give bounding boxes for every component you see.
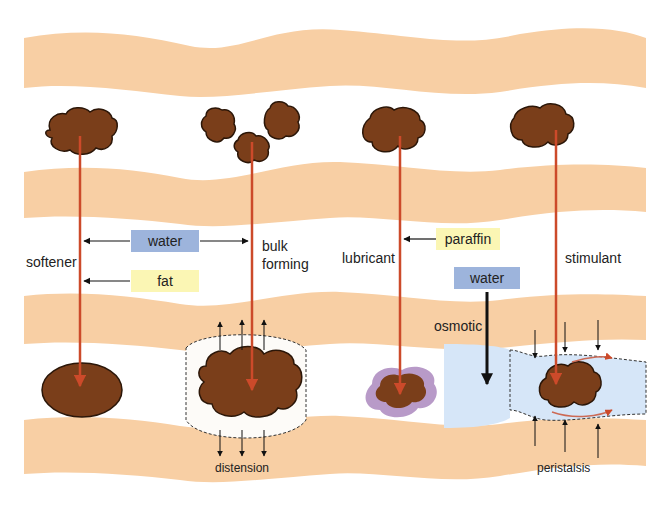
fat-box: fat: [131, 270, 199, 292]
stool-softener-top: [46, 108, 118, 155]
upper-gut-wall-bottom: [24, 162, 646, 226]
upper-gut-wall-top: [24, 28, 646, 97]
water-box-osmotic: water: [454, 267, 520, 289]
label-bulk: bulk: [262, 238, 288, 255]
label-softener: softener: [26, 254, 77, 271]
label-osmotic: osmotic: [434, 318, 482, 335]
lower-gut-wall-top: [24, 292, 646, 352]
label-distension: distension: [215, 460, 269, 477]
label-forming: forming: [262, 256, 309, 273]
stool-stimulant-top: [511, 104, 574, 147]
stool-bulk-top: [202, 102, 300, 163]
stool-lubricant-top: [363, 107, 425, 152]
water-box-top: water: [131, 230, 199, 252]
osmotic-fluid: [444, 344, 510, 428]
label-peristalsis: peristalsis: [537, 460, 590, 477]
label-lubricant: lubricant: [342, 250, 395, 267]
label-stimulant: stimulant: [565, 250, 621, 267]
stool-softener-bottom: [42, 363, 122, 417]
stool-bulk-bottom: [199, 347, 302, 417]
paraffin-box: paraffin: [436, 228, 500, 250]
